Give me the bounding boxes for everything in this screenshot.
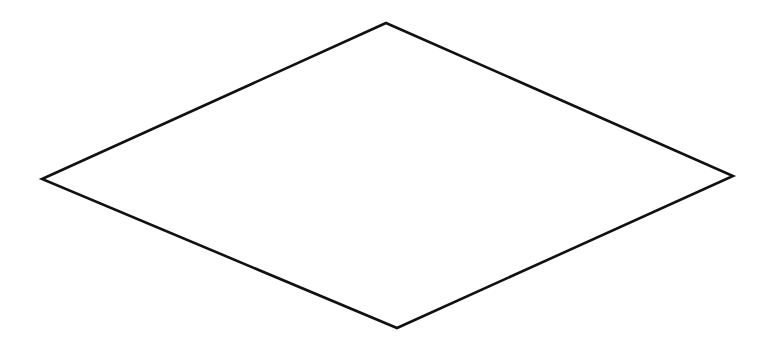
diagram-svg bbox=[0, 0, 767, 347]
diagram-canvas bbox=[0, 0, 767, 347]
rhombus-shape bbox=[42, 23, 733, 328]
